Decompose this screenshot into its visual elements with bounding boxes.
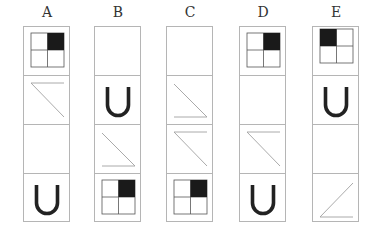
option-column-d[interactable] <box>239 26 286 222</box>
empty-icon <box>240 76 287 125</box>
label-a: A <box>23 4 71 20</box>
cell-grid-tl <box>313 27 358 76</box>
grid-tr-icon <box>167 174 214 223</box>
label-b: B <box>94 4 142 20</box>
line-bottom-rising-icon <box>313 174 360 223</box>
empty-icon <box>24 125 71 174</box>
label-e: E <box>312 4 360 20</box>
cell-grid-tr <box>167 173 212 222</box>
line-diag-bottom-icon <box>167 76 214 125</box>
cell-empty <box>313 124 358 173</box>
grid-tr-icon <box>24 27 71 76</box>
line-top-diag-icon <box>167 125 214 174</box>
cell-empty <box>24 124 69 173</box>
cell-grid-tr <box>240 27 285 76</box>
label-d: D <box>239 4 287 20</box>
cell-grid-tr <box>95 173 140 222</box>
label-c: C <box>166 4 214 20</box>
option-column-e[interactable] <box>312 26 359 222</box>
cell-line-top-diag <box>167 124 212 173</box>
cell-line-bottom-rising <box>313 173 358 222</box>
cell-u-shape <box>240 173 285 222</box>
option-column-a[interactable] <box>23 26 70 222</box>
line-top-diag-icon <box>240 125 287 174</box>
option-column-c[interactable] <box>166 26 213 222</box>
cell-line-diag-bottom <box>167 75 212 124</box>
cell-u-shape <box>24 173 69 222</box>
grid-tr-icon <box>95 174 142 223</box>
empty-icon <box>167 27 214 76</box>
u-shape-icon <box>95 76 142 125</box>
option-column-b[interactable] <box>94 26 141 222</box>
cell-empty <box>95 27 140 76</box>
u-shape-icon <box>240 174 287 223</box>
cell-line-diag-bottom <box>95 124 140 173</box>
line-diag-bottom-icon <box>95 125 142 174</box>
cell-empty <box>167 27 212 76</box>
grid-tr-icon <box>240 27 287 76</box>
grid-tl-icon <box>313 27 360 76</box>
cell-line-top-diag <box>24 75 69 124</box>
cell-u-shape <box>313 75 358 124</box>
cell-empty <box>240 75 285 124</box>
cell-line-top-diag <box>240 124 285 173</box>
empty-icon <box>95 27 142 76</box>
empty-icon <box>313 125 360 174</box>
u-shape-icon <box>24 174 71 223</box>
cell-u-shape <box>95 75 140 124</box>
line-top-diag-icon <box>24 76 71 125</box>
cell-grid-tr <box>24 27 69 76</box>
u-shape-icon <box>313 76 360 125</box>
